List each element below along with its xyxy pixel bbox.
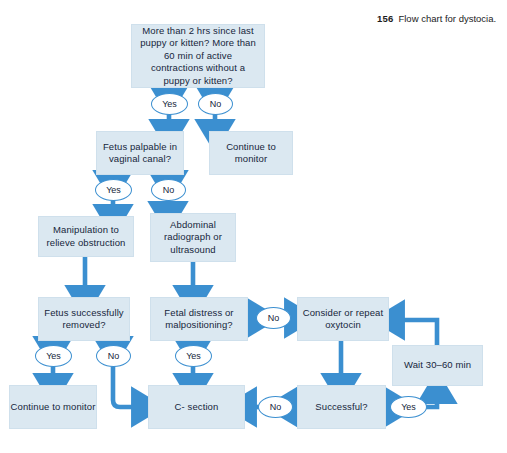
decision-removed-no-label: No (108, 351, 120, 361)
decision-distress-yes-label: Yes (186, 351, 201, 361)
decision-start-no-label: No (210, 99, 222, 109)
decision-start-no: No (198, 93, 233, 115)
decision-palpable-yes-label: Yes (106, 185, 121, 195)
decision-start-yes: Yes (151, 93, 188, 115)
node-continue-monitor-top-label: Continue to monitor (210, 141, 292, 166)
node-oxytocin-label: Consider or repeat oxytocin (298, 307, 388, 332)
decision-distress-no-label: No (268, 313, 280, 323)
node-start: More than 2 hrs since last puppy or kitt… (131, 24, 265, 88)
node-fetus-removed: Fetus successfully removed? (38, 297, 130, 341)
node-successful-label: Successful? (315, 401, 367, 414)
node-start-label: More than 2 hrs since last puppy or kitt… (138, 25, 258, 88)
node-successful: Successful? (297, 385, 386, 429)
decision-successful-no-label: No (270, 402, 282, 412)
decision-palpable-no-label: No (163, 185, 175, 195)
node-fetal-distress-label: Fetal distress or malpositioning? (151, 307, 247, 332)
decision-successful-no: No (258, 396, 293, 418)
decision-removed-yes-label: Yes (46, 351, 61, 361)
decision-successful-yes: Yes (390, 396, 427, 418)
figure-caption: 156Flow chart for dystocia. (377, 13, 496, 24)
node-manipulation-label: Manipulation to relieve obstruction (39, 224, 133, 249)
node-manipulation: Manipulation to relieve obstruction (38, 216, 134, 257)
decision-successful-yes-label: Yes (401, 402, 416, 412)
node-c-section-label: C- section (175, 401, 219, 414)
node-continue-monitor-top: Continue to monitor (209, 131, 293, 175)
node-wait-label: Wait 30–60 min (404, 359, 471, 372)
node-abdominal-radiograph: Abdominal radiograph or ultrasound (150, 213, 236, 262)
figure-caption-text: Flow chart for dystocia. (398, 13, 496, 24)
node-continue-monitor-bottom-label: Continue to monitor (11, 401, 96, 414)
decision-palpable-no: No (151, 179, 186, 201)
decision-distress-yes: Yes (175, 345, 212, 367)
node-wait: Wait 30–60 min (392, 345, 483, 386)
decision-distress-no: No (256, 307, 291, 329)
node-fetus-removed-label: Fetus successfully removed? (39, 307, 129, 332)
decision-palpable-yes: Yes (95, 179, 132, 201)
decision-removed-no: No (96, 345, 131, 367)
figure-number: 156 (377, 13, 393, 24)
node-abdominal-radiograph-label: Abdominal radiograph or ultrasound (151, 219, 235, 257)
node-fetal-distress: Fetal distress or malpositioning? (150, 297, 248, 341)
decision-start-yes-label: Yes (162, 99, 177, 109)
node-fetus-palpable-label: Fetus palpable in vaginal canal? (97, 141, 183, 166)
node-oxytocin: Consider or repeat oxytocin (297, 297, 389, 341)
node-fetus-palpable: Fetus palpable in vaginal canal? (96, 131, 184, 175)
decision-removed-yes: Yes (35, 345, 72, 367)
node-c-section: C- section (148, 385, 245, 429)
node-continue-monitor-bottom: Continue to monitor (9, 385, 97, 429)
flow-chart-dystocia: More than 2 hrs since last puppy or kitt… (0, 0, 507, 453)
